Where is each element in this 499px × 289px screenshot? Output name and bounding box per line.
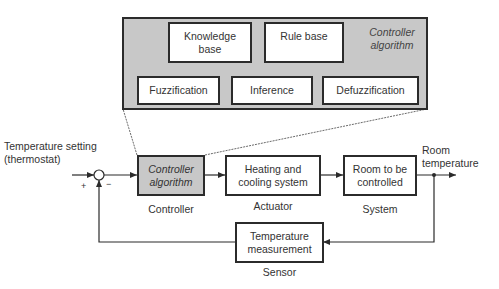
actuator-caption: Actuator	[225, 200, 321, 213]
system-block: Room to be controlled	[343, 155, 417, 196]
zoom-line-right	[205, 109, 427, 155]
minus-sign: −	[106, 178, 111, 191]
defuzzification-label: Defuzzification	[336, 84, 404, 97]
sensor-block: Temperature measurement	[235, 222, 324, 263]
plus-sign: +	[81, 180, 86, 193]
defuzzification-block: Defuzzification	[322, 76, 419, 105]
rule-base-block: Rule base	[264, 22, 344, 63]
inference-label: Inference	[250, 84, 294, 97]
rule-base-label: Rule base	[280, 30, 327, 43]
sensor-block-label: Temperature measurement	[240, 230, 320, 256]
knowledge-base-block: Knowledge base	[168, 22, 252, 63]
actuator-block: Heating and cooling system	[225, 155, 321, 196]
system-block-label: Room to be controlled	[348, 163, 412, 189]
system-caption: System	[343, 203, 417, 216]
controller-caption: Controller	[137, 203, 205, 216]
input-label: Temperature setting (thermostat)	[4, 140, 97, 166]
output-label: Room temperature	[422, 144, 479, 170]
fuzzification-block: Fuzzification	[137, 76, 220, 105]
fuzzification-label: Fuzzification	[149, 84, 207, 97]
controller-block-label: Controller algorithm	[143, 163, 199, 189]
controller-algorithm-title: Controller algorithm	[360, 26, 424, 52]
inference-block: Inference	[231, 76, 313, 105]
sensor-caption: Sensor	[235, 266, 324, 279]
actuator-block-label: Heating and cooling system	[230, 163, 316, 189]
controller-block: Controller algorithm	[137, 155, 205, 196]
zoom-line-left	[123, 109, 137, 155]
summing-junction	[94, 170, 104, 180]
knowledge-base-label: Knowledge base	[180, 30, 240, 56]
